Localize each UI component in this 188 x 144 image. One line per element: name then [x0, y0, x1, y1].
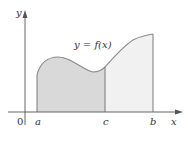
- x-axis-arrow-icon: [175, 110, 183, 115]
- y-axis-label: y: [15, 7, 22, 18]
- x-axis-label: x: [171, 116, 177, 127]
- point-a-label: a: [35, 116, 41, 127]
- origin-label: 0: [17, 116, 23, 127]
- point-c-label: c: [103, 116, 109, 127]
- region-a-to-c: [37, 57, 105, 112]
- area-diagram: y x 0 a c b y = f(x): [0, 0, 188, 144]
- point-b-label: b: [150, 116, 156, 127]
- function-label: y = f(x): [73, 39, 112, 50]
- region-c-to-b: [105, 34, 153, 112]
- y-axis-arrow-icon: [23, 10, 28, 18]
